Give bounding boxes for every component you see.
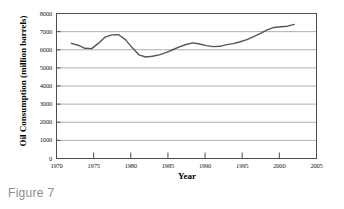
y-tick-label: 1000	[22, 136, 52, 143]
y-tick-label: 7000	[22, 28, 52, 35]
plot-area	[56, 13, 317, 159]
figure-caption: Figure 7	[8, 186, 54, 200]
x-tick-label: 1975	[79, 162, 109, 169]
y-tick-label: 6000	[22, 46, 52, 53]
line-chart-svg	[56, 13, 317, 159]
y-tick-label: 3000	[22, 100, 52, 107]
y-tick-label: 8000	[22, 10, 52, 17]
gridlines	[57, 32, 317, 141]
x-tick-label: 1990	[190, 162, 220, 169]
data-line-oil-consumption	[71, 24, 294, 57]
x-tick-label: 1985	[153, 162, 183, 169]
y-tick-label: 2000	[22, 118, 52, 125]
x-tick-label: 1980	[116, 162, 146, 169]
x-axis-ticks	[57, 153, 317, 159]
y-axis-ticks	[57, 14, 61, 159]
figure-container: Oil Consumption (million barrels) 010002…	[0, 0, 344, 209]
y-tick-label: 4000	[22, 82, 52, 89]
x-axis-title: Year	[56, 171, 318, 181]
x-tick-label: 2005	[302, 162, 332, 169]
x-tick-label: 1970	[42, 162, 72, 169]
x-tick-label: 2000	[264, 162, 294, 169]
y-tick-label: 5000	[22, 64, 52, 71]
x-tick-label: 1995	[227, 162, 257, 169]
y-tick-label: 0	[22, 155, 52, 162]
